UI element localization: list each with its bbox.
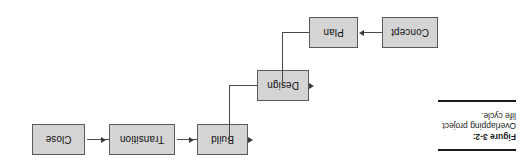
edge-design-to-build-segment-h1 [229,85,257,86]
edge-build-to-transition-arrowhead [189,137,194,143]
edge-concept-to-plan-arrowhead [359,30,364,36]
edge-build-to-transition [177,139,197,140]
edge-plan-to-design-segment-v [282,32,283,86]
flow-node-transition[interactable]: Transition [109,124,175,155]
figure-canvas: Figure 3-2: Overlapping project life cyc… [0,0,530,165]
flow-node-concept-label: Concept [391,28,429,38]
figure-caption-label: Figure 3-2: [473,132,516,142]
flow-node-build-label: Build [211,135,234,145]
flow-node-close-label: Close [45,135,71,145]
edge-design-to-build-segment-v [229,86,230,140]
flow-node-plan-label: Plan [323,28,343,38]
flow-node-plan[interactable]: Plan [309,17,358,48]
edge-plan-to-design-segment-h1 [282,32,309,33]
flow-node-close[interactable]: Close [32,124,85,155]
flow-node-design-label: Design [267,81,299,91]
flow-node-transition-label: Transition [120,135,165,145]
figure-caption-text: Figure 3-2: Overlapping project life cyc… [438,111,516,143]
flow-node-build[interactable]: Build [197,124,248,155]
edge-transition-to-close-arrowhead [101,137,106,143]
edge-design-to-build-arrowhead [248,137,253,143]
edge-plan-to-design-arrowhead [309,83,314,89]
figure-caption: Figure 3-2: Overlapping project life cyc… [438,101,516,152]
flow-node-design[interactable]: Design [257,70,309,101]
figure-caption-body: Overlapping project life cycle. [442,111,516,132]
edge-concept-to-plan [363,32,382,33]
flow-node-concept[interactable]: Concept [382,17,438,48]
